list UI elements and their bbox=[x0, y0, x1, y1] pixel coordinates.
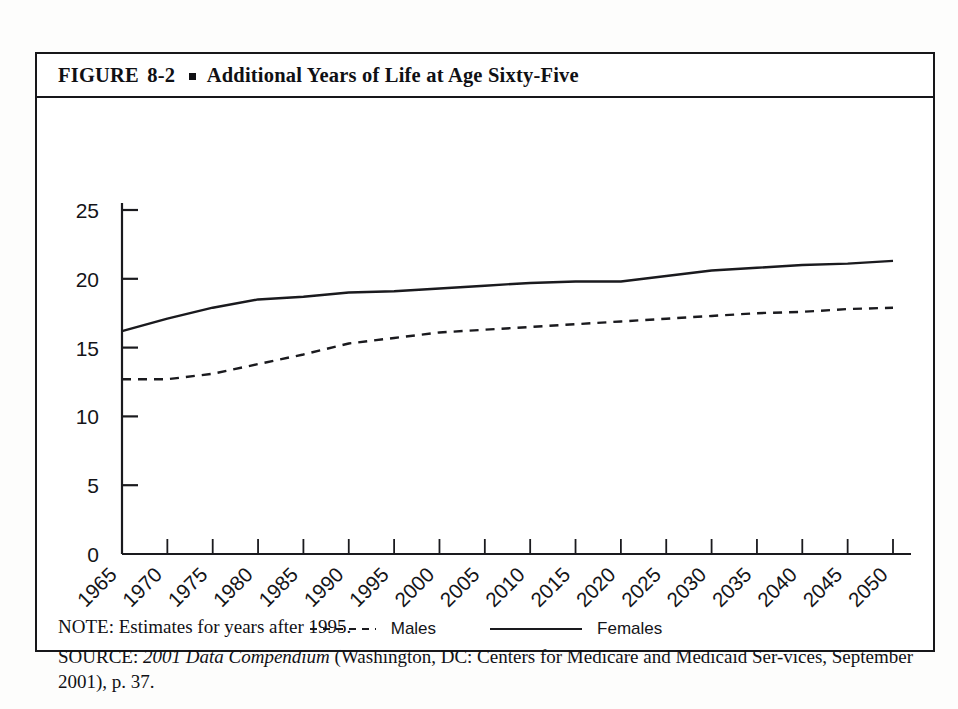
y-axis-tick-label: 25 bbox=[76, 199, 99, 222]
x-axis-tick-label: 1975 bbox=[163, 563, 212, 612]
figure-notes: NOTE: Estimates for years after 1995. SO… bbox=[58, 614, 936, 694]
note-line: NOTE: Estimates for years after 1995. bbox=[58, 614, 936, 639]
source-title: 2001 Data Compendium bbox=[143, 646, 330, 667]
x-axis-tick-label: 2040 bbox=[753, 563, 802, 612]
y-axis-tick-label: 0 bbox=[87, 543, 99, 566]
figure-page: FIGURE 8-2 Additional Years of Life at A… bbox=[0, 0, 958, 709]
page-title: FIGURE 8-2 Additional Years of Life at A… bbox=[37, 64, 579, 87]
series-line-females bbox=[122, 261, 893, 331]
figure-box: FIGURE 8-2 Additional Years of Life at A… bbox=[35, 52, 935, 652]
source-line: SOURCE: 2001 Data Compendium (Washington… bbox=[58, 644, 928, 694]
x-axis-tick-label: 1985 bbox=[254, 563, 303, 612]
chart-area: 0510152025196519701975198019851990199520… bbox=[37, 98, 933, 650]
line-chart: 0510152025196519701975198019851990199520… bbox=[37, 98, 933, 650]
x-axis-tick-label: 2015 bbox=[526, 563, 575, 612]
series-line-males bbox=[122, 308, 893, 380]
figure-number: 8-2 bbox=[147, 64, 175, 86]
x-axis-tick-label: 2000 bbox=[390, 563, 439, 612]
source-prefix: SOURCE: bbox=[58, 646, 138, 667]
y-axis-tick-label: 15 bbox=[76, 337, 99, 360]
x-axis-tick-label: 2020 bbox=[571, 563, 620, 612]
figure-title-text: Additional Years of Life at Age Sixty-Fi… bbox=[207, 64, 579, 86]
y-axis-tick-label: 10 bbox=[76, 405, 99, 428]
x-axis-tick-label: 2010 bbox=[480, 563, 529, 612]
x-axis-tick-label: 2050 bbox=[843, 563, 892, 612]
x-axis-tick-label: 1990 bbox=[299, 563, 348, 612]
x-axis-tick-label: 2045 bbox=[798, 563, 847, 612]
x-axis-tick-label: 1965 bbox=[72, 563, 121, 612]
x-axis-tick-label: 2035 bbox=[707, 563, 756, 612]
x-axis-tick-label: 1980 bbox=[208, 563, 257, 612]
figure-label: FIGURE bbox=[58, 64, 139, 86]
figure-title-bar: FIGURE 8-2 Additional Years of Life at A… bbox=[37, 54, 933, 98]
y-axis-tick-label: 5 bbox=[87, 474, 99, 497]
x-axis-tick-label: 2005 bbox=[435, 563, 484, 612]
x-axis-tick-label: 1970 bbox=[118, 563, 167, 612]
x-axis-tick-label: 2025 bbox=[617, 563, 666, 612]
square-bullet-icon bbox=[189, 73, 196, 80]
x-axis-tick-label: 2030 bbox=[662, 563, 711, 612]
y-axis-tick-label: 20 bbox=[76, 268, 99, 291]
x-axis-tick-label: 1995 bbox=[344, 563, 393, 612]
